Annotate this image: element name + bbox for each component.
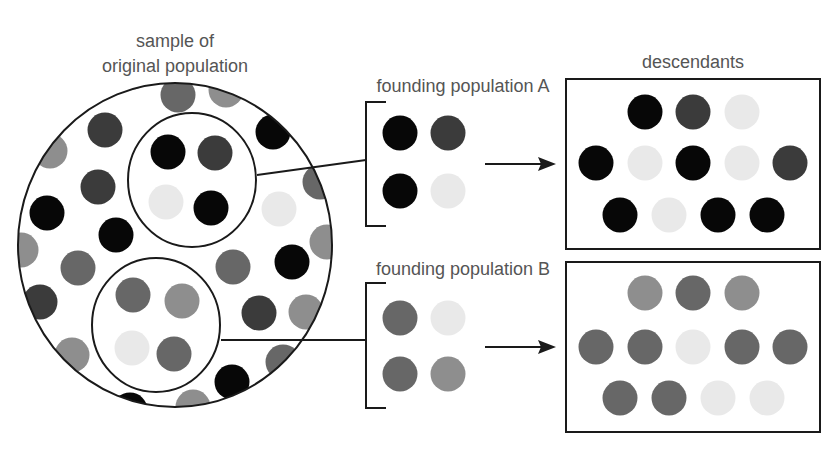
allele-dot: [676, 95, 711, 130]
allele-dot: [99, 218, 134, 253]
sample-label-line1: sample of: [136, 31, 215, 51]
allele-dot: [383, 301, 418, 336]
allele-dot: [262, 192, 297, 227]
allele-dot: [242, 296, 277, 331]
founding-population-a: [366, 102, 466, 226]
allele-dot: [431, 174, 466, 209]
founding-b-label: founding population B: [376, 259, 550, 279]
allele-dot: [725, 276, 760, 311]
allele-dot: [209, 73, 244, 108]
allele-dot: [216, 250, 251, 285]
allele-dot: [628, 95, 663, 130]
allele-dot: [30, 196, 65, 231]
allele-dot: [215, 365, 250, 400]
allele-dot: [383, 116, 418, 151]
allele-dot: [157, 337, 192, 372]
allele-dot: [701, 198, 736, 233]
allele-dot: [194, 191, 229, 226]
allele-dot: [275, 245, 310, 280]
founding-population-b: [366, 283, 466, 408]
allele-dot: [198, 136, 233, 171]
allele-dot: [115, 331, 150, 366]
allele-dot: [676, 276, 711, 311]
bracket-b: [366, 283, 386, 408]
allele-dot: [431, 301, 466, 336]
allele-dot: [149, 185, 184, 220]
allele-dot: [603, 198, 638, 233]
allele-dot: [81, 170, 116, 205]
sample-label-line2: original population: [102, 56, 248, 76]
allele-dot: [4, 233, 39, 268]
allele-dot: [383, 174, 418, 209]
allele-dot: [383, 357, 418, 392]
allele-dot: [431, 357, 466, 392]
allele-dot: [579, 330, 614, 365]
allele-dot: [628, 330, 663, 365]
allele-dot: [725, 146, 760, 181]
allele-dot: [725, 330, 760, 365]
allele-dot: [725, 95, 760, 130]
allele-dot: [652, 198, 687, 233]
sample-b-outline: [92, 258, 220, 392]
sample-b: [92, 258, 220, 392]
allele-dot: [750, 198, 785, 233]
allele-dot: [61, 251, 96, 286]
allele-dot: [628, 276, 663, 311]
descendants-a: [566, 79, 820, 249]
sample-a: [128, 113, 256, 247]
allele-dot: [676, 330, 711, 365]
allele-dot: [116, 278, 151, 313]
arrow-right-icon: [485, 340, 556, 354]
allele-dot: [151, 135, 186, 170]
arrow-right-icon: [485, 157, 556, 171]
allele-dot: [773, 330, 808, 365]
allele-dot: [165, 284, 200, 319]
allele-dot: [431, 116, 466, 151]
original-population: [4, 55, 345, 428]
allele-dot: [652, 381, 687, 416]
sample-a-outline: [128, 113, 256, 247]
founder-effect-diagram: sample of original population founding p…: [0, 0, 840, 463]
allele-dot: [88, 113, 123, 148]
allele-dot: [113, 393, 148, 428]
allele-dot: [701, 381, 736, 416]
allele-dot: [773, 146, 808, 181]
bracket-a: [366, 102, 386, 226]
allele-dot: [750, 381, 785, 416]
allele-dot: [310, 225, 345, 260]
allele-dot: [603, 381, 638, 416]
allele-dot: [256, 115, 291, 150]
descendants-b: [566, 262, 820, 432]
allele-dot: [33, 134, 68, 169]
founding-a-label: founding population A: [376, 76, 549, 96]
allele-dot: [676, 146, 711, 181]
allele-dot: [628, 146, 663, 181]
descendants-label: descendants: [642, 52, 744, 72]
allele-dot: [579, 146, 614, 181]
